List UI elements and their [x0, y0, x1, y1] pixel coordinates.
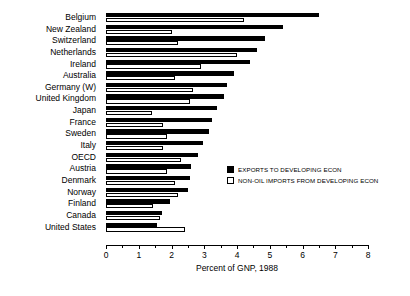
category-label: OECD	[0, 152, 100, 164]
bar-group	[106, 24, 368, 36]
category-label: Belgium	[0, 12, 100, 24]
legend-swatch-imports	[227, 177, 234, 184]
x-tick-label: 6	[293, 250, 313, 260]
x-tick-label: 1	[129, 250, 149, 260]
category-label: United Kingdom	[0, 93, 100, 105]
x-axis-title: Percent of GNP, 1988	[106, 263, 368, 273]
bar-exports	[106, 211, 162, 215]
bar-group	[106, 210, 368, 222]
bar-imports	[106, 111, 152, 115]
category-label: Italy	[0, 140, 100, 152]
bar-group	[106, 82, 368, 94]
x-tick-minor	[221, 245, 222, 248]
category-label: Switzerland	[0, 35, 100, 47]
bar-exports	[106, 129, 209, 133]
legend-label-imports: NON-OIL IMPORTS FROM DEVELOPING ECON	[238, 177, 378, 184]
bar-exports	[106, 71, 234, 75]
x-tick-label: 3	[194, 250, 214, 260]
x-tick	[303, 245, 304, 249]
bar-exports	[106, 118, 212, 122]
x-tick	[335, 245, 336, 249]
bar-imports	[106, 18, 244, 22]
category-label: Austria	[0, 163, 100, 175]
bar-group	[106, 128, 368, 140]
bar-exports	[106, 176, 190, 180]
bar-group	[106, 47, 368, 59]
chart-container: BelgiumNew ZealandSwitzerlandNetherlands…	[0, 0, 410, 296]
bar-group	[106, 140, 368, 152]
bar-group	[106, 187, 368, 199]
category-label: Germany (W)	[0, 82, 100, 94]
bar-exports	[106, 199, 170, 203]
x-tick-minor	[253, 245, 254, 248]
x-tick-label: 8	[358, 250, 378, 260]
x-tick-label: 4	[227, 250, 247, 260]
x-tick	[139, 245, 140, 249]
x-tick-minor	[352, 245, 353, 248]
bar-group	[106, 93, 368, 105]
category-label: United States	[0, 222, 100, 234]
x-tick-label: 2	[162, 250, 182, 260]
category-label: Netherlands	[0, 47, 100, 59]
category-label: Japan	[0, 105, 100, 117]
x-tick	[106, 245, 107, 249]
bar-exports	[106, 94, 224, 98]
bar-exports	[106, 188, 188, 192]
x-tick-minor	[122, 245, 123, 248]
bar-exports	[106, 141, 203, 145]
bar-group	[106, 59, 368, 71]
bar-imports	[106, 99, 190, 103]
category-label: Australia	[0, 70, 100, 82]
legend-item-imports: NON-OIL IMPORTS FROM DEVELOPING ECON	[227, 177, 378, 184]
legend-label-exports: EXPORTS TO DEVELOPING ECON	[238, 166, 342, 173]
bar-imports	[106, 76, 175, 80]
bar-imports	[106, 123, 163, 127]
legend-item-exports: EXPORTS TO DEVELOPING ECON	[227, 166, 378, 173]
category-axis-labels: BelgiumNew ZealandSwitzerlandNetherlands…	[0, 12, 100, 245]
x-tick-label: 0	[96, 250, 116, 260]
bar-group	[106, 152, 368, 164]
chart-legend: EXPORTS TO DEVELOPING ECON NON-OIL IMPOR…	[227, 166, 378, 187]
category-label: Canada	[0, 210, 100, 222]
bar-exports	[106, 36, 265, 40]
bar-exports	[106, 60, 250, 64]
category-label: Denmark	[0, 175, 100, 187]
bar-imports	[106, 53, 237, 57]
category-label: Norway	[0, 187, 100, 199]
x-tick	[237, 245, 238, 249]
bar-imports	[106, 193, 178, 197]
bar-imports	[106, 146, 163, 150]
bar-exports	[106, 164, 191, 168]
bar-group	[106, 222, 368, 234]
category-label: Ireland	[0, 59, 100, 71]
x-tick-label: 7	[325, 250, 345, 260]
bar-imports	[106, 134, 167, 138]
bar-exports	[106, 48, 257, 52]
bar-imports	[106, 41, 178, 45]
bar-group	[106, 117, 368, 129]
bar-exports	[106, 83, 227, 87]
x-tick	[270, 245, 271, 249]
x-tick-minor	[319, 245, 320, 248]
x-tick-label: 5	[260, 250, 280, 260]
x-tick	[172, 245, 173, 249]
x-tick	[368, 245, 369, 249]
bar-imports	[106, 30, 172, 34]
x-tick	[204, 245, 205, 249]
x-tick-minor	[286, 245, 287, 248]
legend-swatch-exports	[227, 166, 234, 173]
bar-group	[106, 70, 368, 82]
category-label: Sweden	[0, 128, 100, 140]
category-label: Finland	[0, 198, 100, 210]
bar-imports	[106, 181, 175, 185]
bar-exports	[106, 153, 198, 157]
bar-group	[106, 35, 368, 47]
bar-imports	[106, 158, 181, 162]
plot-area	[106, 12, 368, 245]
bar-imports	[106, 64, 201, 68]
bar-imports	[106, 169, 167, 173]
bar-imports	[106, 227, 185, 231]
bar-exports	[106, 223, 157, 227]
category-label: New Zealand	[0, 24, 100, 36]
bar-imports	[106, 204, 153, 208]
